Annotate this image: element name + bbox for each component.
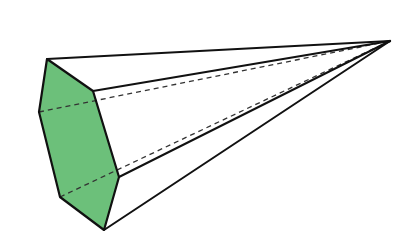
edge-bottom-to-apex — [104, 41, 390, 230]
hidden-edge-lower-left-to-apex — [60, 41, 390, 197]
apex-point — [389, 40, 391, 42]
edge-lower-right-to-apex — [119, 41, 390, 177]
hexagonal-pyramid-diagram — [0, 0, 420, 247]
pyramid-svg — [0, 0, 420, 247]
hexagon-base-face — [39, 59, 119, 230]
